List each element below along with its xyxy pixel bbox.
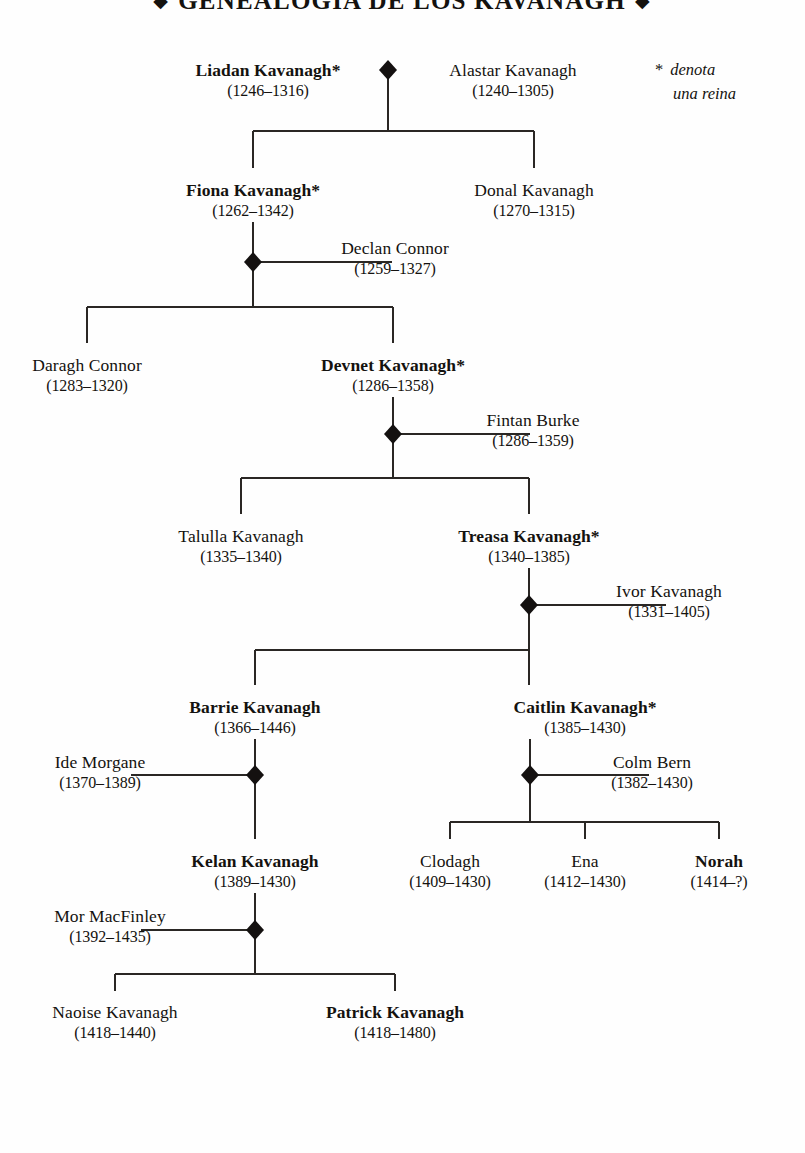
person-dates: (1286–1358) <box>321 376 465 396</box>
marriage-diamond-devnet-fintan <box>384 424 402 444</box>
person-dates: (1418–1480) <box>326 1023 464 1043</box>
person-colm: Colm Bern (1382–1430) <box>611 752 693 793</box>
marriage-diamond-kelan-mor <box>246 920 264 940</box>
person-dates: (1262–1342) <box>186 201 320 221</box>
family-tree-page: ◆GENEALOGÍA DE LOS KAVANAGH◆ <box>0 0 805 1153</box>
person-treasa: Treasa Kavanagh* (1340–1385) <box>458 526 599 567</box>
person-fintan: Fintan Burke (1286–1359) <box>486 410 579 451</box>
person-caitlin: Caitlin Kavanagh* (1385–1430) <box>513 697 656 738</box>
person-dates: (1385–1430) <box>513 718 656 738</box>
marriage-diamond-liadan-alastar <box>379 60 397 80</box>
person-dates: (1389–1430) <box>191 872 318 892</box>
person-dates: (1286–1359) <box>486 431 579 451</box>
person-name: Patrick Kavanagh <box>326 1002 464 1023</box>
person-dates: (1418–1440) <box>52 1023 177 1043</box>
legend-line-2: una reina <box>655 82 736 106</box>
person-ide: Ide Morgane (1370–1389) <box>55 752 146 793</box>
legend: *denota una reina <box>655 58 736 106</box>
person-patrick: Patrick Kavanagh (1418–1480) <box>326 1002 464 1043</box>
person-name: Colm Bern <box>611 752 693 773</box>
person-name: Talulla Kavanagh <box>178 526 303 547</box>
person-ivor: Ivor Kavanagh (1331–1405) <box>616 581 722 622</box>
person-mor: Mor MacFinley (1392–1435) <box>54 906 166 947</box>
person-name: Ide Morgane <box>55 752 146 773</box>
person-name: Declan Connor <box>341 238 449 259</box>
person-dates: (1259–1327) <box>341 259 449 279</box>
person-name: Fiona Kavanagh* <box>186 180 320 201</box>
person-dates: (1370–1389) <box>55 773 146 793</box>
person-dates: (1240–1305) <box>449 81 576 101</box>
person-name: Devnet Kavanagh* <box>321 355 465 376</box>
marriage-diamond-treasa-ivor <box>520 595 538 615</box>
person-dates: (1409–1430) <box>409 872 491 892</box>
person-name: Caitlin Kavanagh* <box>513 697 656 718</box>
person-dates: (1414–?) <box>691 872 748 892</box>
person-name: Clodagh <box>409 851 491 872</box>
person-declan: Declan Connor (1259–1327) <box>341 238 449 279</box>
person-name: Donal Kavanagh <box>474 180 593 201</box>
person-name: Kelan Kavanagh <box>191 851 318 872</box>
person-dates: (1340–1385) <box>458 547 599 567</box>
person-dates: (1392–1435) <box>54 927 166 947</box>
person-dates: (1366–1446) <box>189 718 320 738</box>
person-name: Mor MacFinley <box>54 906 166 927</box>
person-ena: Ena (1412–1430) <box>544 851 626 892</box>
person-kelan: Kelan Kavanagh (1389–1430) <box>191 851 318 892</box>
person-norah: Norah (1414–?) <box>691 851 748 892</box>
person-dates: (1283–1320) <box>32 376 142 396</box>
person-fiona: Fiona Kavanagh* (1262–1342) <box>186 180 320 221</box>
person-dates: (1335–1340) <box>178 547 303 567</box>
person-name: Norah <box>691 851 748 872</box>
person-name: Ivor Kavanagh <box>616 581 722 602</box>
person-daragh: Daragh Connor (1283–1320) <box>32 355 142 396</box>
person-dates: (1270–1315) <box>474 201 593 221</box>
person-alastar: Alastar Kavanagh (1240–1305) <box>449 60 576 101</box>
person-name: Ena <box>544 851 626 872</box>
person-devnet: Devnet Kavanagh* (1286–1358) <box>321 355 465 396</box>
person-dates: (1246–1316) <box>195 81 340 101</box>
person-naoise: Naoise Kavanagh (1418–1440) <box>52 1002 177 1043</box>
connector-lines <box>0 0 805 1153</box>
legend-line-1: denota <box>670 60 715 79</box>
person-name: Liadan Kavanagh* <box>195 60 340 81</box>
person-name: Daragh Connor <box>32 355 142 376</box>
person-talulla: Talulla Kavanagh (1335–1340) <box>178 526 303 567</box>
person-donal: Donal Kavanagh (1270–1315) <box>474 180 593 221</box>
person-dates: (1412–1430) <box>544 872 626 892</box>
person-name: Treasa Kavanagh* <box>458 526 599 547</box>
person-clodagh: Clodagh (1409–1430) <box>409 851 491 892</box>
person-dates: (1382–1430) <box>611 773 693 793</box>
marriage-diamond-barrie-ide <box>246 765 264 785</box>
legend-asterisk-icon: * <box>655 60 670 79</box>
person-barrie: Barrie Kavanagh (1366–1446) <box>189 697 320 738</box>
person-dates: (1331–1405) <box>616 602 722 622</box>
person-name: Fintan Burke <box>486 410 579 431</box>
person-name: Alastar Kavanagh <box>449 60 576 81</box>
marriage-diamond-caitlin-colm <box>521 765 539 785</box>
marriage-diamond-fiona-declan <box>244 252 262 272</box>
person-name: Naoise Kavanagh <box>52 1002 177 1023</box>
person-liadan: Liadan Kavanagh* (1246–1316) <box>195 60 340 101</box>
person-name: Barrie Kavanagh <box>189 697 320 718</box>
